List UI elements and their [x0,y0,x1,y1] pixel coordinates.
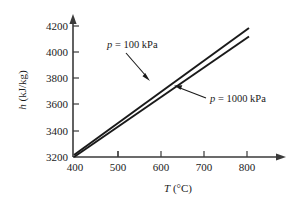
x-tick-label-400: 400 [67,161,84,173]
annotation-arrow-1000-kpa [174,85,206,98]
x-tick-label-700: 700 [196,161,213,173]
annotation-eq-100: = 100 kPa [112,39,158,50]
y-tick-label-3600: 3600 [46,98,69,110]
series-line-100-kpa [74,28,249,155]
x-tick-label-500: 500 [110,161,127,173]
y-tick-label-3800: 3800 [46,72,69,84]
annotation-arrow-100-kpa [126,53,150,81]
x-axis-title-unit: (°C) [170,182,192,195]
annotation-label-1000-kpa: p = 1000 kPa [209,93,266,104]
y-tick-label-4200: 4200 [46,20,69,32]
annotation-eq-1000: = 1000 kPa [215,93,266,104]
y-axis [69,14,76,157]
annotation-label-100-kpa: p = 100 kPa [106,39,158,50]
x-tick-label-600: 600 [153,161,170,173]
x-axis-ticks [118,151,247,157]
y-axis-title-unit: (kJ/kg) [16,70,29,104]
y-axis-ticks [73,26,79,131]
y-axis-title: h (kJ/kg) [16,70,29,110]
x-axis [73,153,286,160]
y-tick-label-4000: 4000 [46,46,69,58]
y-tick-label-3200: 3200 [46,151,69,163]
y-tick-label-3400: 3400 [46,125,69,137]
chart-figure: 4200 4000 3800 3600 3400 3200 400 500 60… [0,0,302,203]
x-tick-label-800: 800 [239,161,256,173]
chart-canvas: 4200 4000 3800 3600 3400 3200 400 500 60… [0,0,302,203]
x-axis-title: T (°C) [164,182,192,195]
